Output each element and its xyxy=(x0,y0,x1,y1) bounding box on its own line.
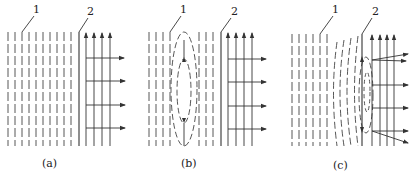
panel-a xyxy=(8,16,125,146)
caption-b: (b) xyxy=(181,157,197,170)
panel-c xyxy=(292,16,408,146)
diagram-canvas xyxy=(0,0,413,177)
panel-b xyxy=(149,16,266,146)
caption-a: (a) xyxy=(42,157,57,170)
boundary-ellipse xyxy=(359,57,373,133)
label-2-b: 2 xyxy=(231,5,238,18)
region-1-dashed-lines xyxy=(8,32,71,146)
curved-dashed-lines xyxy=(334,36,359,146)
region-1-dashed-lines xyxy=(292,34,327,146)
label-1-c: 1 xyxy=(332,3,339,16)
label-2-c: 2 xyxy=(372,5,379,18)
caption-c: (c) xyxy=(333,159,348,172)
label-1-a: 1 xyxy=(33,3,40,16)
label-2-a: 2 xyxy=(87,5,94,18)
region-1-dashed-lines xyxy=(149,32,213,146)
label-1-b: 1 xyxy=(180,3,187,16)
